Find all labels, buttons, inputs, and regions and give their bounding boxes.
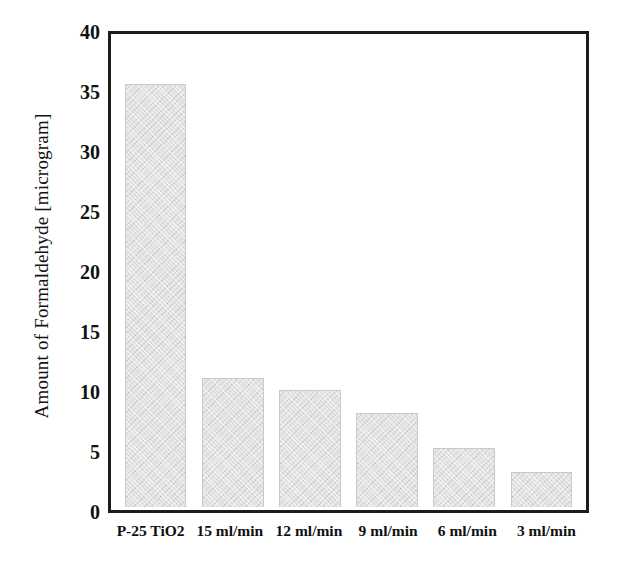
bar-slot [271,37,348,507]
y-axis-tick-labels: 40 35 30 25 20 15 10 5 0 [46,32,100,512]
x-tick-label: 12 ml/min [269,522,348,540]
x-tick-label: P-25 TiO2 [111,522,190,540]
bar[interactable] [433,448,495,507]
bar-chart-figure: Amount of Formaldehyde [microgram] 40 35… [0,0,623,568]
bar[interactable] [356,413,418,507]
bar[interactable] [125,84,187,507]
x-axis-tick-labels: P-25 TiO2 15 ml/min 12 ml/min 9 ml/min 6… [111,522,586,540]
bar[interactable] [202,378,264,507]
y-tick-label: 30 [46,142,100,162]
y-tick-label: 25 [46,202,100,222]
x-tick-label: 9 ml/min [349,522,428,540]
y-tick-label: 0 [46,502,100,522]
x-tick-label: 6 ml/min [428,522,507,540]
plot-area [108,31,589,513]
bar-slot [117,37,194,507]
y-tick-label: 5 [46,442,100,462]
bar-slot [426,37,503,507]
x-tick-label: 3 ml/min [507,522,586,540]
y-tick-label: 15 [46,322,100,342]
y-tick-label: 10 [46,382,100,402]
bar-slot [503,37,580,507]
y-tick-label: 20 [46,262,100,282]
y-tick-label: 35 [46,82,100,102]
bar-slot [349,37,426,507]
x-tick-label: 15 ml/min [190,522,269,540]
bar[interactable] [279,390,341,508]
bar[interactable] [511,472,573,507]
bars-layer [114,37,583,507]
y-tick-label: 40 [46,22,100,42]
bar-slot [194,37,271,507]
